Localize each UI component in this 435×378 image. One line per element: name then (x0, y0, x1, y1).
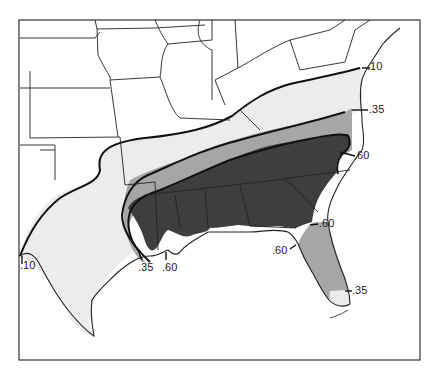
label-tx-010: .10 (20, 260, 35, 271)
map-canvas (0, 0, 435, 378)
label-fl-035: .35 (352, 285, 367, 296)
label-la-060: .60 (162, 262, 177, 273)
label-fl-060-west: .60 (272, 245, 287, 256)
label-nc-060: .60 (354, 150, 369, 161)
label-tx-035: .35 (138, 262, 153, 273)
label-fl-060-east: .60 (319, 218, 334, 229)
label-va-010: .10 (367, 61, 382, 72)
label-nc-035: .35 (369, 104, 384, 115)
